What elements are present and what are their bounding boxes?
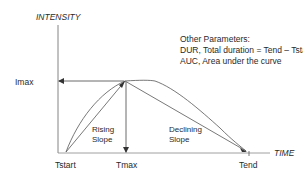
rising-slope-line1: Rising (92, 125, 114, 135)
parameter-auc: AUC, Area under the curve (180, 56, 303, 67)
rising-slope-line2: Slope (92, 135, 114, 145)
tmax-label: Tmax (116, 160, 137, 170)
declining-slope-line1: Declining (169, 125, 202, 135)
tend-label: Tend (239, 160, 257, 170)
rising-slope-label: Rising Slope (92, 125, 114, 145)
other-parameters-box: Other Parameters: DUR, Total duration = … (180, 34, 303, 67)
x-axis-label: TIME (274, 148, 294, 158)
parameters-title: Other Parameters: (180, 34, 303, 45)
parameter-dur: DUR, Total duration = Tend – Tstart (180, 45, 303, 56)
declining-slope-label: Declining Slope (169, 125, 202, 145)
tstart-label: Tstart (55, 160, 76, 170)
diagram-canvas (0, 0, 303, 179)
imax-label: Imax (15, 77, 33, 87)
intensity-time-diagram: INTENSITY TIME Imax Tstart Tmax Tend Ris… (0, 0, 303, 179)
y-axis-label: INTENSITY (36, 12, 80, 22)
declining-slope-line2: Slope (169, 135, 202, 145)
